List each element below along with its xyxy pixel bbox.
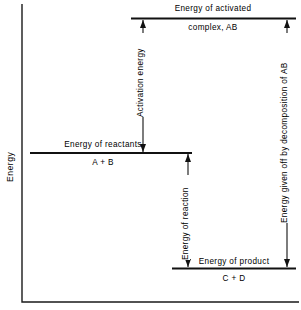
energy-of-reaction-arrowhead-up <box>185 154 191 162</box>
energy-given-off-arrowhead-down <box>284 259 290 267</box>
activation-energy-label: Activation energy <box>136 48 145 117</box>
product-label-line2: C + D <box>223 274 246 283</box>
energy-diagram-canvas: Energy Energy of activated complex, AB E… <box>0 0 301 310</box>
y-axis-label: Energy <box>5 152 15 182</box>
energy-given-off-arrowhead-up <box>284 20 290 28</box>
product-label-line1: Energy of product <box>199 257 270 266</box>
reactants-label-line2: A + B <box>92 158 114 167</box>
activation-energy-arrowhead-up <box>140 20 146 28</box>
energy-given-off-label: Energy given off by decomposition of AB <box>280 62 289 223</box>
energy-diagram: Energy Energy of activated complex, AB E… <box>0 0 301 310</box>
reactants-label-line1: Energy of reactants <box>64 140 142 149</box>
activated-complex-label-line1: Energy of activated <box>175 4 252 13</box>
activated-complex-label-line2: complex, AB <box>188 23 238 32</box>
energy-of-reaction-label: Energy of reaction <box>181 187 190 260</box>
